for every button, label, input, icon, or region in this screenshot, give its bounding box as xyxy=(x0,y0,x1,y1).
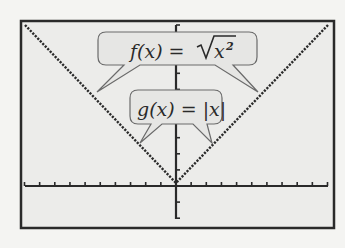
callout-f-exponent: 2 xyxy=(225,40,234,53)
callout-f-label: f(x) = xyxy=(128,40,185,62)
callout-f-radicand: x xyxy=(214,40,225,62)
callout-g-label: g(x) = |x| xyxy=(137,98,226,121)
graph-plot: f(x) = x 2 g(x) = |x| xyxy=(0,0,345,248)
graphing-calculator-screen: f(x) = x 2 g(x) = |x| xyxy=(0,0,345,248)
